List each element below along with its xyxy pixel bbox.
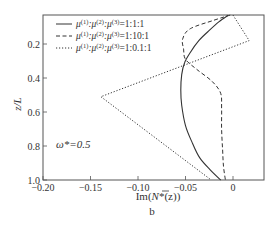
x-tick-label: 0: [231, 182, 236, 193]
legend-label: μ(1):μ(2):μ(3)=1:1:1: [75, 18, 145, 30]
y-tick-label: 0.6: [28, 107, 41, 118]
legend-label: μ(1):μ(2):μ(3)=1:0.1:1: [75, 42, 152, 54]
chart: −0.20−0.15−0.10−0.050 0.20.40.60.81.0 μ(…: [0, 0, 277, 227]
y-axis: 0.20.40.60.81.0: [28, 39, 48, 186]
y-tick-label: 0.4: [28, 73, 41, 84]
x-axis-label: Im(N*(z)): [136, 190, 181, 203]
y-tick-label: 0.8: [28, 141, 41, 152]
series-solid-line: [181, 15, 229, 180]
series-dashed-line: [182, 15, 230, 180]
panel-label: b: [149, 205, 155, 217]
x-tick-label: −0.15: [79, 182, 102, 193]
y-tick-label: 0.2: [28, 39, 41, 50]
x-axis: −0.20−0.15−0.10−0.050: [31, 176, 235, 193]
legend-label: μ(1):μ(2):μ(3)=1:10:1: [75, 30, 149, 42]
y-tick-label: 1.0: [28, 175, 41, 186]
svg-text:Im(N*(z)): Im(N*(z)): [136, 190, 181, 203]
y-axis-label: z/L: [11, 97, 23, 111]
legend: μ(1):μ(2):μ(3)=1:1:1μ(1):μ(2):μ(3)=1:10:…: [56, 18, 152, 54]
annotation-omega: ω*=0.5: [56, 138, 91, 150]
